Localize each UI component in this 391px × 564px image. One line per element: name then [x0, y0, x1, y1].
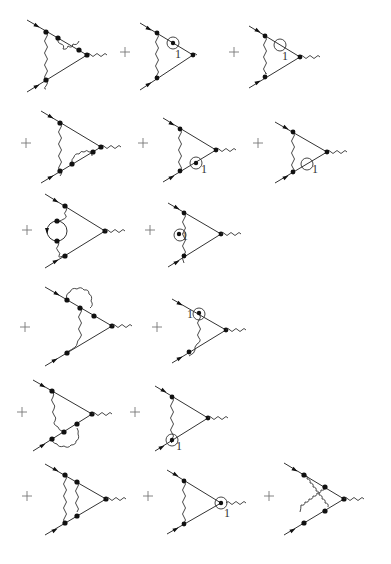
- plus-sign: [264, 491, 274, 501]
- diagram-10: 1: [172, 299, 246, 363]
- diagram-12: 1: [155, 386, 228, 453]
- plus-sign: [229, 47, 239, 57]
- diagram-5: 1: [163, 118, 236, 182]
- diagram-8: 1: [168, 203, 241, 267]
- plus-sign: [21, 138, 31, 148]
- counterterm-label: 1: [201, 162, 207, 176]
- plus-sign: [120, 47, 130, 57]
- diagram-6: 1: [275, 122, 347, 183]
- diagram-4: [41, 111, 121, 183]
- plus-sign: [22, 225, 32, 235]
- plus-sign: [145, 225, 155, 235]
- plus-sign: [138, 138, 148, 148]
- plus-sign: [152, 322, 162, 332]
- diagram-13: [45, 464, 126, 535]
- diagram-14: 1: [167, 470, 246, 534]
- plus-sign: [22, 491, 32, 501]
- diagram-2: 1: [140, 23, 197, 90]
- counterterm-label: 1: [187, 307, 193, 321]
- counterterm-label: 1: [282, 49, 288, 63]
- counterterm-label: 1: [175, 47, 181, 61]
- diagram-9: [45, 287, 132, 366]
- counterterm-label: 1: [224, 506, 230, 520]
- feynman-diagram-figure: 1 1: [0, 0, 391, 564]
- plus-sign: [20, 322, 30, 332]
- plus-sign: [130, 407, 140, 417]
- diagram-15: [284, 463, 364, 535]
- plus-sign: [253, 138, 263, 148]
- plus-sign: [17, 407, 27, 417]
- diagram-3: 1: [249, 26, 320, 88]
- diagram-1: [27, 20, 107, 92]
- diagram-11: [33, 380, 112, 451]
- counterterm-label: 1: [176, 439, 182, 453]
- diagram-7: [45, 194, 125, 268]
- counterterm-label: 1: [312, 162, 318, 176]
- plus-sign: [143, 491, 153, 501]
- counterterm-label: 1: [182, 229, 188, 243]
